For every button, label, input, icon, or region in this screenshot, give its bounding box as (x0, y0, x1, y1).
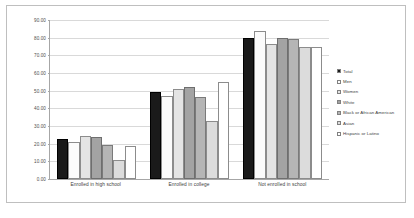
y-axis-tick-label: 90.00 (34, 18, 46, 23)
bar[interactable] (150, 92, 161, 179)
chart-frame: 90.0080.0070.0060.0050.0040.0030.0020.00… (6, 5, 406, 203)
y-axis-tick-label: 30.00 (34, 124, 46, 129)
plot-area: 90.0080.0070.0060.0050.0040.0030.0020.00… (49, 20, 329, 180)
bar[interactable] (80, 136, 91, 179)
y-axis-tick-mark (48, 91, 50, 92)
bar[interactable] (254, 31, 265, 179)
x-axis-category-label: Not enrolled in school (236, 182, 329, 187)
bar-group (236, 20, 329, 179)
legend-item[interactable]: Asian (337, 118, 405, 128)
x-axis-category-labels: Enrolled in high schoolEnrolled in colle… (49, 182, 329, 187)
plot-wrapper: 90.0080.0070.0060.0050.0040.0030.0020.00… (49, 20, 329, 180)
y-axis-tick-label: 0.00 (37, 177, 46, 182)
bar[interactable] (161, 96, 172, 179)
legend-item-label: Women (343, 89, 358, 94)
legend-item[interactable]: Total (337, 66, 405, 76)
y-axis-tick-mark (48, 144, 50, 145)
bars-layer (50, 20, 329, 179)
y-axis-tick-label: 10.00 (34, 159, 46, 164)
y-axis-tick-label: 60.00 (34, 71, 46, 76)
y-axis-tick-label: 40.00 (34, 106, 46, 111)
legend-swatch-icon (337, 100, 341, 104)
bar[interactable] (195, 97, 206, 179)
legend-item-label: Asian (343, 121, 354, 126)
legend-swatch-icon (337, 90, 341, 94)
legend-item[interactable]: White (337, 97, 405, 107)
legend-item-label: White (343, 100, 354, 105)
chart-legend: TotalMenWomenWhiteBlack or African Ameri… (337, 66, 405, 139)
legend-swatch-icon (337, 69, 341, 73)
bar[interactable] (299, 47, 310, 179)
legend-item[interactable]: Black or African American (337, 108, 405, 118)
bar[interactable] (173, 89, 184, 179)
bar[interactable] (68, 142, 79, 179)
bar-group (50, 20, 143, 179)
legend-swatch-icon (337, 111, 341, 115)
y-axis-tick-mark (48, 20, 50, 21)
y-axis-tick-mark (48, 38, 50, 39)
bar[interactable] (266, 44, 277, 179)
legend-item-label: Total (343, 69, 353, 74)
legend-item[interactable]: Hispanic or Latino (337, 128, 405, 138)
bar[interactable] (277, 38, 288, 179)
y-axis-tick-label: 80.00 (34, 35, 46, 40)
bar[interactable] (91, 137, 102, 179)
y-axis-tick-label: 70.00 (34, 53, 46, 58)
y-axis-tick-mark (48, 73, 50, 74)
bar[interactable] (184, 87, 195, 179)
y-axis-tick-mark (48, 55, 50, 56)
y-axis-tick-mark (48, 108, 50, 109)
y-axis-tick-label: 50.00 (34, 88, 46, 93)
legend-item[interactable]: Men (337, 76, 405, 86)
bar[interactable] (311, 47, 322, 180)
bar[interactable] (243, 38, 254, 179)
bar[interactable] (57, 139, 68, 179)
y-axis-tick-mark (48, 126, 50, 127)
bar[interactable] (125, 146, 136, 179)
legend-item-label: Hispanic or Latino (343, 131, 379, 136)
bar-group (143, 20, 236, 179)
y-axis-tick-mark (48, 179, 50, 180)
y-axis-tick-label: 20.00 (34, 141, 46, 146)
legend-item-label: Men (343, 79, 352, 84)
legend-swatch-icon (337, 121, 341, 125)
bar[interactable] (113, 160, 124, 179)
bar[interactable] (288, 39, 299, 179)
y-axis-tick-mark (48, 161, 50, 162)
legend-swatch-icon (337, 80, 341, 84)
legend-item[interactable]: Women (337, 87, 405, 97)
x-axis-category-label: Enrolled in college (142, 182, 235, 187)
bar[interactable] (218, 82, 229, 179)
bar[interactable] (102, 145, 113, 179)
legend-item-label: Black or African American (343, 110, 394, 115)
x-axis-category-label: Enrolled in high school (49, 182, 142, 187)
bar[interactable] (206, 121, 217, 179)
legend-swatch-icon (337, 132, 341, 136)
